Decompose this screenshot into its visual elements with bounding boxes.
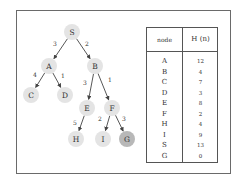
tree-node-D: D xyxy=(57,87,73,103)
table-cell-node: E xyxy=(147,98,182,109)
edge-A-D xyxy=(53,73,61,87)
table-cell-h: 7 xyxy=(183,77,218,88)
node-label: C xyxy=(28,91,34,100)
node-label: E xyxy=(84,104,89,113)
table-cell-node: A xyxy=(147,56,182,67)
node-label: F xyxy=(109,104,114,113)
tree-node-A: A xyxy=(41,58,57,74)
table-cell-h: 9 xyxy=(183,130,218,141)
table-cell-h: 4 xyxy=(183,67,218,78)
edge-cost-label: 1 xyxy=(61,72,65,79)
edge-cost-label: 3 xyxy=(53,40,57,47)
table-cell-h: 4 xyxy=(183,119,218,130)
table-cell-h: 13 xyxy=(183,140,218,151)
node-label: A xyxy=(45,62,52,71)
tree-node-E: E xyxy=(79,100,95,116)
edge-F-I xyxy=(106,116,110,131)
edge-B-E xyxy=(89,74,94,99)
table-header-divider xyxy=(147,51,217,52)
table-cell-h: 2 xyxy=(183,109,218,120)
edge-cost-label: 3 xyxy=(122,115,126,122)
node-label: H xyxy=(73,135,80,144)
edge-cost-label: 2 xyxy=(98,115,102,122)
table-cell-node: F xyxy=(147,109,182,120)
edge-B-F xyxy=(98,73,109,99)
table-cell-node: B xyxy=(147,67,182,78)
tree-node-S: S xyxy=(64,24,80,40)
tree-node-G: G xyxy=(119,131,135,147)
edge-cost-label: 4 xyxy=(33,71,37,78)
table-cell-node: D xyxy=(147,88,182,99)
tree-node-C: C xyxy=(23,87,39,103)
edge-cost-label: 3 xyxy=(83,79,87,86)
heuristic-table: node H (n) A B C D E F H I S G 12 4 7 3 … xyxy=(146,27,218,163)
node-label: G xyxy=(124,135,130,144)
tree-node-B: B xyxy=(87,58,103,74)
edge-cost-label: 5 xyxy=(73,119,77,126)
tree-node-H: H xyxy=(68,131,84,147)
edge-cost-label: 2 xyxy=(85,40,89,47)
edge-A-C xyxy=(36,73,45,88)
edge-cost-label: 1 xyxy=(108,76,112,83)
table-cell-node: G xyxy=(147,151,182,162)
table-cell-h: 3 xyxy=(183,88,218,99)
table-cell-h: 8 xyxy=(183,98,218,109)
table-header-heuristic: H (n) xyxy=(183,28,218,51)
table-cell-node: H xyxy=(147,119,182,130)
node-label: S xyxy=(69,28,74,37)
table-cell-h: 12 xyxy=(183,56,218,67)
edge-E-H xyxy=(79,116,84,131)
node-column: A B C D E F H I S G xyxy=(147,56,182,161)
tree-node-F: F xyxy=(104,100,120,116)
table-cell-node: S xyxy=(147,140,182,151)
table-cell-node: I xyxy=(147,130,182,141)
table-header-node: node xyxy=(147,28,182,51)
node-label: D xyxy=(62,91,68,100)
node-label: B xyxy=(92,62,98,71)
table-cell-h: 0 xyxy=(183,151,218,162)
node-label: I xyxy=(102,135,105,144)
heuristic-column: 12 4 7 3 8 2 4 9 13 0 xyxy=(183,56,218,161)
tree-node-I: I xyxy=(95,131,111,147)
table-cell-node: C xyxy=(147,77,182,88)
